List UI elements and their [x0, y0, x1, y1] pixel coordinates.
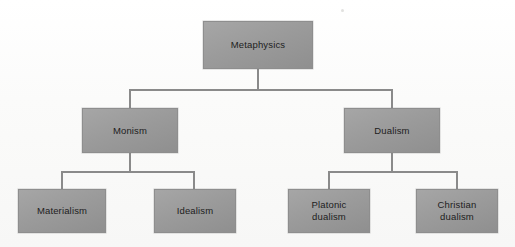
connector-level1-bus	[129, 89, 393, 91]
connector-christian-up	[456, 171, 458, 190]
connector-dualism-down	[391, 153, 393, 172]
connector-monism-down	[129, 153, 131, 172]
connector-dualism-bus	[328, 171, 458, 173]
node-dualism[interactable]: Dualism	[344, 108, 440, 153]
metaphysics-tree-diagram: Metaphysics Monism Dualism Materialism I…	[0, 0, 515, 247]
node-platonic-dualism[interactable]: Platonic dualism	[288, 189, 370, 233]
scan-speck	[341, 9, 344, 12]
node-metaphysics[interactable]: Metaphysics	[203, 21, 313, 69]
connector-materialism-up	[61, 171, 63, 190]
connector-idealism-up	[193, 171, 195, 190]
connector-metaphysics-down	[257, 69, 259, 91]
connector-monism-up	[129, 89, 131, 109]
node-idealism[interactable]: Idealism	[154, 189, 236, 233]
connector-dualism-up	[391, 89, 393, 109]
node-christian-dualism[interactable]: Christian dualism	[416, 189, 498, 233]
node-materialism[interactable]: Materialism	[18, 189, 106, 233]
connector-monism-bus	[61, 171, 195, 173]
connector-platonic-up	[328, 171, 330, 190]
node-monism[interactable]: Monism	[82, 108, 178, 153]
